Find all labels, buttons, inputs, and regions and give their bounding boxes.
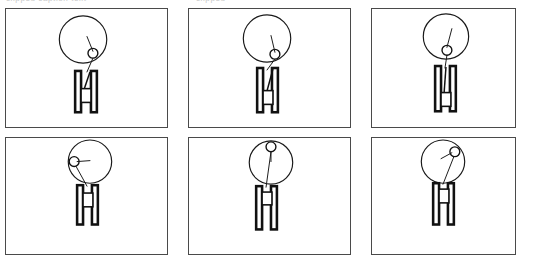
small-circle-icon bbox=[266, 142, 276, 152]
sketch-panel-6[interactable] bbox=[371, 137, 516, 255]
base-crossbar-box bbox=[263, 91, 273, 105]
sketch-drawing-4 bbox=[6, 138, 167, 254]
base-crossbar-box bbox=[262, 192, 272, 205]
sketch-panel-4[interactable] bbox=[5, 137, 168, 255]
sketch-drawing-3 bbox=[372, 9, 515, 127]
big-circle-icon bbox=[423, 14, 468, 59]
big-circle-icon bbox=[243, 15, 290, 62]
base-crossbar-box bbox=[441, 93, 451, 107]
small-circle-icon bbox=[450, 147, 460, 157]
big-circle-icon bbox=[59, 16, 106, 63]
base-right-bar bbox=[91, 71, 97, 112]
panel-grid bbox=[0, 0, 534, 268]
base-diagonal-line bbox=[444, 67, 446, 95]
sketch-panel-1[interactable] bbox=[5, 8, 168, 128]
big-circle-icon bbox=[249, 141, 292, 184]
base-crossbar-box bbox=[83, 193, 93, 207]
sketch-drawing-6 bbox=[372, 138, 515, 254]
tether-line bbox=[443, 157, 454, 185]
base-crossbar-box bbox=[439, 189, 449, 203]
sketch-drawing-5 bbox=[189, 138, 350, 254]
base-left-bar bbox=[77, 185, 83, 224]
base-left-bar bbox=[256, 186, 262, 229]
sketch-grid-stage: clipped caption text clipped bbox=[0, 0, 534, 268]
base-left-bar bbox=[435, 66, 441, 111]
sketch-panel-3[interactable] bbox=[371, 8, 516, 128]
base-crossbar-box bbox=[81, 89, 91, 103]
big-circle-icon bbox=[68, 140, 111, 183]
tether-line bbox=[266, 152, 271, 187]
base-left-bar bbox=[433, 183, 439, 224]
spoke-line bbox=[441, 153, 452, 159]
sketch-panel-5[interactable] bbox=[188, 137, 351, 255]
base-left-bar bbox=[257, 68, 263, 112]
spoke-line bbox=[447, 29, 452, 48]
tether-line bbox=[76, 167, 87, 187]
sketch-drawing-1 bbox=[6, 9, 167, 127]
sketch-panel-2[interactable] bbox=[188, 8, 351, 128]
big-circle-icon bbox=[421, 140, 464, 183]
tether-line bbox=[445, 55, 447, 68]
sketch-drawing-2 bbox=[189, 9, 350, 127]
small-circle-icon bbox=[88, 48, 98, 58]
base-left-bar bbox=[75, 71, 81, 112]
